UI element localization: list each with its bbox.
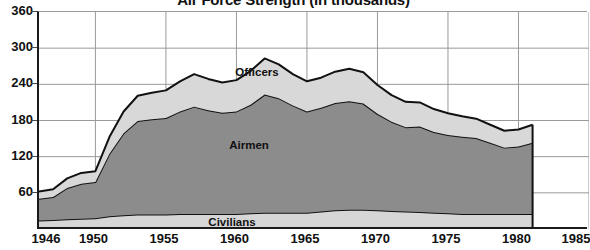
y-axis-label: 240 — [0, 75, 33, 90]
plot-area — [37, 11, 587, 228]
y-axis-tick — [31, 120, 37, 121]
y-axis-tick — [31, 47, 37, 48]
x-axis-label: 1985 — [562, 231, 590, 246]
x-axis-label: 1950 — [79, 231, 108, 246]
x-axis-label: 1970 — [361, 231, 390, 246]
x-axis-label: 1946 — [32, 231, 61, 246]
x-axis-label: 1965 — [290, 231, 319, 246]
x-axis-label: 1975 — [432, 231, 461, 246]
area-airmen — [39, 95, 533, 221]
chart-title: Air Force Strength (in thousands) — [0, 0, 587, 8]
x-axis-label: 1960 — [220, 231, 249, 246]
y-axis-label: 300 — [0, 39, 33, 54]
y-axis-label: 60 — [0, 184, 33, 199]
chart-svg — [39, 12, 589, 229]
y-axis-label: 120 — [0, 148, 33, 163]
y-axis-tick — [31, 192, 37, 193]
y-axis-label: 180 — [0, 112, 33, 127]
chart-title-text: Air Force Strength (in thousands) — [177, 0, 410, 8]
x-axis: 194619501955196019651970197519801985 — [37, 231, 587, 250]
y-axis-tick — [31, 156, 37, 157]
x-axis-label: 1955 — [149, 231, 178, 246]
x-axis-label: 1980 — [502, 231, 531, 246]
y-axis-tick — [31, 83, 37, 84]
axis-baseline — [37, 227, 587, 229]
y-axis-tick — [31, 11, 37, 12]
y-axis-label: 360 — [0, 3, 33, 18]
